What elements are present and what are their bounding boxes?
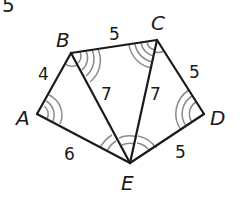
angle-arc-e (119, 136, 137, 138)
edge-label-de: 5 (175, 142, 186, 162)
angle-arc-b (78, 52, 81, 63)
vertex-label-d: D (210, 106, 225, 130)
angle-arc-e (138, 136, 156, 148)
angle-arc-c (135, 44, 153, 62)
angle-arc-c (129, 45, 152, 68)
problem-number: 5 (2, 0, 15, 17)
angle-arc-d (182, 96, 192, 126)
edge-de (130, 114, 204, 163)
vertex-label-c: C (151, 11, 165, 35)
pentagon-diagram: 5 (0, 0, 242, 204)
angle-arc-b (82, 51, 88, 70)
edge-label-ce: 7 (150, 84, 161, 104)
edge-label-bc: 5 (109, 24, 120, 44)
edge-label-ea: 6 (64, 144, 75, 164)
angle-arc-c (147, 42, 155, 50)
angle-arc-b (90, 49, 100, 82)
vertex-label-b: B (56, 28, 70, 52)
angle-arc-e (107, 141, 116, 151)
angle-arc-a (49, 95, 62, 124)
angle-arc-c2 (155, 51, 164, 52)
edge-label-cd: 5 (189, 62, 200, 82)
vertex-label-e: E (121, 171, 134, 195)
edge-label-ab: 4 (38, 64, 49, 84)
angle-arc-b2 (65, 64, 77, 66)
edge-label-be: 7 (101, 84, 112, 104)
vertex-label-a: A (14, 106, 30, 130)
